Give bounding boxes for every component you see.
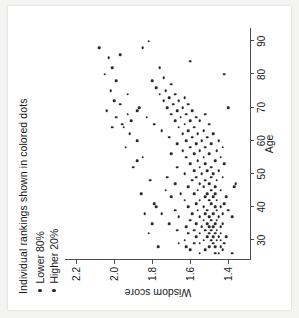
data-point xyxy=(219,239,222,242)
y-tick xyxy=(114,260,115,264)
data-point xyxy=(207,226,210,229)
data-point xyxy=(166,106,169,109)
data-point xyxy=(168,96,171,99)
data-point xyxy=(204,113,207,116)
data-point xyxy=(151,222,154,225)
data-point xyxy=(204,163,207,166)
data-point xyxy=(215,209,218,212)
data-point xyxy=(175,110,178,113)
data-point xyxy=(221,222,224,225)
y-axis-label: Wisdom score xyxy=(65,286,251,300)
data-point xyxy=(173,93,176,96)
data-point xyxy=(114,116,117,119)
legend-item-higher-20[interactable]: Higher 20% xyxy=(47,229,61,292)
data-point xyxy=(168,222,171,225)
y-axis-label-text: Wisdom score xyxy=(124,287,191,299)
data-point xyxy=(143,212,146,215)
y-tick-label: 1.4 xyxy=(222,267,233,281)
data-point xyxy=(188,146,191,149)
data-point xyxy=(160,129,163,132)
x-tick xyxy=(250,107,254,108)
data-point xyxy=(206,136,209,139)
data-point xyxy=(183,239,186,242)
data-point xyxy=(209,219,212,222)
data-point xyxy=(223,202,226,205)
data-point xyxy=(173,120,176,123)
data-point xyxy=(223,73,226,76)
data-point xyxy=(230,252,233,255)
x-tick xyxy=(250,40,254,41)
data-point xyxy=(188,120,191,123)
data-point xyxy=(183,173,186,176)
data-point xyxy=(135,159,138,162)
data-point xyxy=(213,252,216,255)
data-point xyxy=(188,60,191,63)
data-point xyxy=(202,219,205,222)
data-point xyxy=(198,216,201,219)
data-point xyxy=(147,232,150,235)
data-point xyxy=(126,93,129,96)
data-point xyxy=(111,126,114,129)
data-point xyxy=(190,136,193,139)
y-tick xyxy=(228,260,229,264)
data-point xyxy=(152,202,155,205)
data-point xyxy=(202,156,205,159)
y-tick xyxy=(190,260,191,264)
data-point xyxy=(149,179,152,182)
data-point xyxy=(118,103,121,106)
data-point xyxy=(177,126,180,129)
data-point xyxy=(185,156,188,159)
data-point xyxy=(169,113,172,116)
data-point xyxy=(204,212,207,215)
data-point xyxy=(103,73,106,76)
data-point xyxy=(225,196,228,199)
data-point xyxy=(213,232,216,235)
legend-label-lower-80: Lower 80% xyxy=(34,231,46,284)
data-point xyxy=(124,146,127,149)
data-point xyxy=(139,192,142,195)
data-point xyxy=(192,153,195,156)
data-point xyxy=(226,209,229,212)
data-point xyxy=(141,156,144,159)
data-point xyxy=(190,179,193,182)
data-point xyxy=(128,133,131,136)
data-point xyxy=(209,239,212,242)
data-point xyxy=(221,249,224,252)
data-point xyxy=(194,202,197,205)
x-tick xyxy=(250,206,254,207)
data-point xyxy=(223,163,226,166)
data-point xyxy=(207,199,210,202)
data-point xyxy=(202,129,205,132)
data-point xyxy=(126,113,129,116)
data-point xyxy=(211,212,214,215)
data-point xyxy=(185,139,188,142)
data-point xyxy=(113,100,116,103)
x-axis-line xyxy=(250,28,251,260)
data-point xyxy=(169,153,172,156)
x-tick xyxy=(250,73,254,74)
data-point xyxy=(154,206,157,209)
data-point xyxy=(204,229,207,232)
data-point xyxy=(198,166,201,169)
legend-item-lower-80[interactable]: Lower 80% xyxy=(33,229,47,292)
data-point xyxy=(200,139,203,142)
data-point xyxy=(206,169,209,172)
data-point xyxy=(215,239,218,242)
x-tick xyxy=(250,239,254,240)
data-point xyxy=(198,149,201,152)
data-point xyxy=(168,136,171,139)
data-point xyxy=(225,236,228,239)
data-point xyxy=(207,245,210,248)
y-tick xyxy=(76,260,77,264)
data-point xyxy=(156,245,159,248)
chart-legend: Lower 80% Higher 20% xyxy=(33,229,61,292)
screenshot-page: Individual rankings shown in colored dot… xyxy=(0,0,299,318)
data-point xyxy=(192,126,195,129)
data-point xyxy=(187,103,190,106)
data-point xyxy=(211,242,214,245)
data-point xyxy=(207,153,210,156)
y-tick-label: 1.8 xyxy=(146,267,157,281)
data-point xyxy=(204,249,207,252)
data-point xyxy=(215,219,218,222)
data-point xyxy=(187,129,190,132)
